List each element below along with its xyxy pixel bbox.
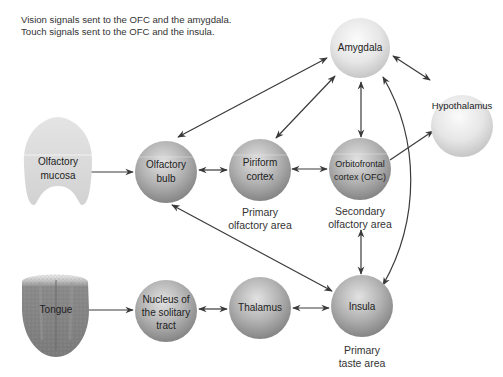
olfactory-bulb-label-2: bulb [157,173,176,185]
hypothalamus-label: Hypothalamus [432,100,493,112]
secondary-olfactory-area-label-1: Secondary [335,205,385,218]
piriform-cortex-label-1: Piriform [243,157,277,169]
primary-olfactory-area-label-2: olfactory area [228,219,292,232]
tongue-label: Tongue [40,304,73,316]
olfactory-bulb-sphere [135,141,197,203]
arrow-piriform-amygdala [276,76,335,138]
ofc-label-1: Orbitofrontal [335,158,385,170]
amygdala-label: Amygdala [338,42,382,54]
primary-taste-area-label-1: Primary [344,344,380,357]
olfactory-bulb-label-1: Olfactory [146,159,186,171]
diagram-canvas [0,0,503,377]
primary-olfactory-area-label-1: Primary [242,206,278,219]
arrow-amygdala-hypothalamus [393,56,430,80]
primary-taste-area-label-2: taste area [339,357,386,370]
arrow-bulb-amygdala [178,58,327,137]
taste-smell-pathway-diagram: Vision signals sent to the OFC and the a… [0,0,503,377]
piriform-cortex-sphere [229,139,291,201]
arrow-ofc-to-hypothalamus [390,131,433,160]
piriform-cortex-label-2: cortex [246,171,273,183]
olfactory-mucosa-label-1: Olfactory [38,156,78,168]
olfactory-mucosa-label-2: mucosa [40,170,75,182]
insula-label: Insula [349,301,376,313]
caption-touch: Touch signals sent to the OFC and the in… [21,26,215,38]
nts-label-2: the solitary [142,307,190,319]
caption-vision: Vision signals sent to the OFC and the a… [21,14,231,26]
secondary-olfactory-area-label-2: olfactory area [328,218,392,231]
nts-label-3: tract [156,320,175,332]
thalamus-label: Thalamus [238,302,282,314]
nts-label-1: Nucleus of [142,294,189,306]
ofc-label-2: cortex (OFC) [334,171,386,183]
